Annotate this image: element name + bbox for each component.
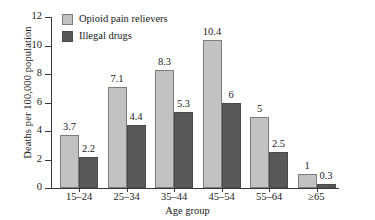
x-axis-title: Age group bbox=[0, 205, 375, 216]
bar-value-label: 10.4 bbox=[192, 27, 232, 38]
bar-value-label: 6 bbox=[211, 90, 251, 101]
bar-chart: Deaths per 100,000 population 024681012 … bbox=[0, 0, 375, 220]
x-tick-label: 15–24 bbox=[52, 192, 106, 203]
bar bbox=[174, 112, 193, 188]
x-axis-line bbox=[51, 188, 339, 189]
bar-value-label: 7.1 bbox=[97, 74, 137, 85]
bar bbox=[155, 70, 174, 188]
bar-value-label: 0.3 bbox=[306, 171, 346, 182]
bar bbox=[79, 157, 98, 188]
legend-label-illegal: Illegal drugs bbox=[79, 31, 132, 42]
legend-swatch-icon-opioid bbox=[62, 14, 73, 25]
bar bbox=[203, 40, 222, 188]
bar bbox=[108, 87, 127, 188]
legend: Opioid pain relievers Illegal drugs bbox=[62, 12, 168, 46]
y-tick-label: 12 bbox=[16, 11, 42, 22]
y-tick-mark bbox=[45, 17, 51, 18]
y-tick-label: 0 bbox=[16, 182, 42, 193]
x-tick-label: 55–64 bbox=[242, 192, 296, 203]
bar-value-label: 3.7 bbox=[50, 122, 90, 133]
bar bbox=[127, 125, 146, 188]
y-tick-label: 2 bbox=[16, 154, 42, 165]
x-tick-label: ≥65 bbox=[290, 192, 344, 203]
legend-item-opioid: Opioid pain relievers bbox=[62, 12, 168, 27]
y-tick-mark bbox=[45, 160, 51, 161]
y-tick-label: 8 bbox=[16, 68, 42, 79]
legend-item-illegal: Illegal drugs bbox=[62, 29, 168, 44]
bar bbox=[269, 152, 288, 188]
bar-value-label: 8.3 bbox=[145, 57, 185, 68]
y-tick-label: 4 bbox=[16, 125, 42, 136]
legend-swatch-icon-illegal bbox=[62, 31, 73, 42]
y-axis-line bbox=[51, 17, 52, 189]
bar-value-label: 2.5 bbox=[259, 139, 299, 150]
y-tick-label: 10 bbox=[16, 40, 42, 51]
bar-value-label: 5 bbox=[240, 104, 280, 115]
legend-label-opioid: Opioid pain relievers bbox=[79, 14, 168, 25]
x-tick-label: 45–54 bbox=[195, 192, 249, 203]
bar-value-label: 2.2 bbox=[69, 144, 109, 155]
y-tick-mark bbox=[45, 74, 51, 75]
x-tick-label: 35–44 bbox=[147, 192, 201, 203]
bar-value-label: 4.4 bbox=[116, 112, 156, 123]
bar bbox=[250, 117, 269, 188]
y-tick-mark bbox=[45, 103, 51, 104]
bar bbox=[222, 103, 241, 189]
y-tick-mark bbox=[45, 46, 51, 47]
x-tick-label: 25–34 bbox=[100, 192, 154, 203]
y-tick-label: 6 bbox=[16, 97, 42, 108]
bar-value-label: 5.3 bbox=[164, 99, 204, 110]
